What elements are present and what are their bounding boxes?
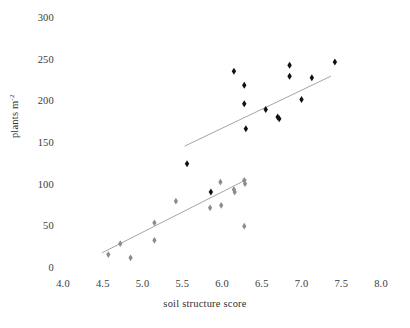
y-tick-label: 250 [22,53,54,64]
data-point-grey-diamonds [218,179,222,186]
data-point-black-diamonds [209,188,213,195]
y-tick-label: 300 [22,12,54,23]
x-tick-label: 5.0 [136,278,150,289]
scatter-plot-figure: 050100150200250300 4.04.55.05.56.06.57.0… [0,0,410,328]
data-point-grey-diamonds [118,240,122,247]
x-tick-label: 7.5 [334,278,348,289]
data-point-grey-diamonds [128,254,132,261]
x-tick-label: 4.5 [96,278,110,289]
y-tick-label: 200 [22,95,54,106]
trendlines-group [102,76,331,253]
data-point-grey-diamonds [242,223,246,230]
data-point-black-diamonds [299,96,303,103]
data-point-black-diamonds [310,74,314,81]
x-tick-label: 7.0 [295,278,309,289]
x-axis-label: soil structure score [0,298,410,309]
data-point-grey-diamonds [219,202,223,209]
data-point-black-diamonds [244,125,248,132]
x-tick-label: 8.0 [374,278,388,289]
x-tick-label: 6.5 [255,278,269,289]
x-tick-label: 6.0 [215,278,229,289]
y-axis-label: plants m-2 [8,56,21,176]
data-point-black-diamonds [232,68,236,75]
y-axis-label-base: plants m [9,101,20,138]
data-point-black-diamonds [287,73,291,80]
data-point-grey-diamonds [106,251,110,258]
x-tick-label: 4.0 [56,278,70,289]
y-tick-label: 0 [22,262,54,273]
data-point-grey-diamonds [174,198,178,205]
data-point-black-diamonds [287,62,291,69]
y-axis-label-exponent: -2 [8,94,16,100]
y-tick-label: 100 [22,178,54,189]
data-points-group [106,58,337,261]
data-point-black-diamonds [185,160,189,167]
x-tick-label: 5.5 [175,278,189,289]
y-tick-label: 50 [22,220,54,231]
data-point-black-diamonds [242,100,246,107]
data-point-grey-diamonds [208,204,212,211]
data-point-black-diamonds [242,82,246,89]
grey-trendline [102,180,247,253]
data-point-black-diamonds [333,58,337,65]
data-point-grey-diamonds [152,237,156,244]
black-trendline [185,76,331,146]
y-tick-label: 150 [22,137,54,148]
